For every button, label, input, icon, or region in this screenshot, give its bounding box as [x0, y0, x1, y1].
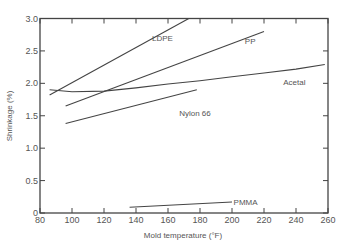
x-tick-label: 240 [288, 215, 303, 225]
series-line-nylon-66 [66, 90, 197, 124]
y-tick-label: 0.5 [25, 176, 38, 186]
series-label-nylon-66: Nylon 66 [179, 109, 211, 118]
series-label-acetal: Acetal [283, 78, 305, 87]
series-label-pp: PP [245, 37, 256, 46]
x-tick-label: 120 [96, 215, 111, 225]
x-axis-title: Mold temperature (°F) [144, 231, 223, 240]
series-label-ldpe: LDPE [152, 34, 173, 43]
y-tick-label: 2.0 [25, 78, 38, 88]
series-label-pmma: PMMA [234, 198, 259, 207]
y-axis-ticks: 00.51.01.52.02.53.0 [25, 14, 328, 219]
x-tick-label: 200 [224, 215, 239, 225]
y-tick-label: 1.0 [25, 143, 38, 153]
y-tick-label: 1.5 [25, 111, 38, 121]
x-tick-label: 160 [160, 215, 175, 225]
x-tick-label: 140 [128, 215, 143, 225]
x-tick-label: 220 [256, 215, 271, 225]
y-tick-label: 0 [33, 208, 38, 218]
x-tick-label: 100 [64, 215, 79, 225]
y-tick-label: 2.5 [25, 46, 38, 56]
series-labels: LDPEPPAcetalNylon 66PMMA [152, 34, 306, 207]
x-tick-label: 260 [320, 215, 335, 225]
y-tick-label: 3.0 [25, 14, 38, 24]
series-line-pmma [130, 202, 232, 207]
shrinkage-chart: 80100120140160180200220240260 00.51.01.5… [0, 0, 349, 251]
x-axis-ticks: 80100120140160180200220240260 [35, 19, 336, 226]
x-tick-label: 180 [192, 215, 207, 225]
y-axis-title: Shrinkage (%) [5, 90, 14, 141]
